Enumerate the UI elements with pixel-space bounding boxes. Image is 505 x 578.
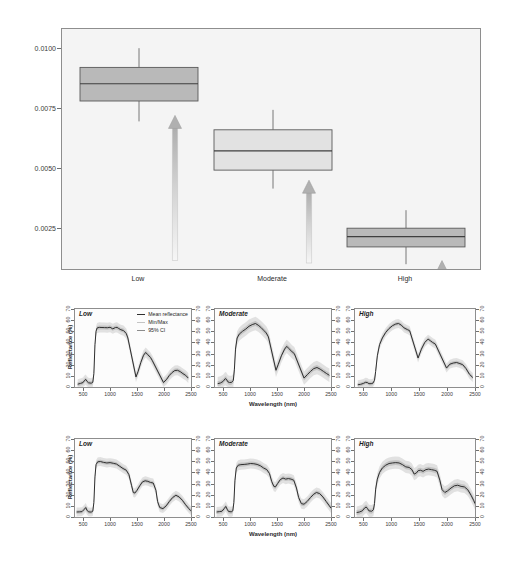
spectra-x-tick-mark [223,388,224,391]
spectra-x-tick-mark [277,518,278,521]
boxplot-category-label-low: Low [108,275,168,282]
spectra-panel-title: Moderate [219,311,248,318]
spectra-y-tick-mark-right [192,354,195,355]
spectra-x-tick-mark [419,518,420,521]
spectra-x-tick-label: 1000 [99,522,121,527]
spectra-x-tick-label: 2000 [153,522,175,527]
spectra-y-tick-mark [351,331,354,332]
spectra-x-tick-label: 2500 [464,522,486,527]
boxplot-graphics [62,29,480,269]
boxplot-category-label-high: High [375,275,435,282]
spectra-y-tick-mark [211,342,214,343]
spectra-x-tick-mark [363,388,364,391]
spectra-x-axis-title: Wavelength (nm) [214,401,332,407]
spectra-y-tick-mark-right [476,365,479,366]
spectra-y-tick-mark [211,517,214,518]
spectra-y-tick-mark-right [476,472,479,473]
spectra-y-tick-mark-right [476,506,479,507]
spectra-x-tick-label: 2500 [464,392,486,397]
spectra-band-minmax [357,456,475,517]
legend-entry: Min/Max [137,319,188,326]
spectra-y-tick-mark [71,387,74,388]
boxplot-category-label-moderate: Moderate [242,275,302,282]
spectra-y-tick-mark-right [476,342,479,343]
spectra-y-tick-mark-right [332,376,335,377]
legend-entry: Mean reflectance [137,311,188,318]
spectra-y-tick-mark [351,354,354,355]
spectra-y-tick-mark-right [192,450,195,451]
boxplot-region: Water Content (cm) 0.01000.00750.00500.0… [0,0,505,292]
spectra-y-tick-mark-right [192,331,195,332]
spectra-y-tick-label-right: 70 [196,432,201,446]
spectra-y-tick-mark-right [192,365,195,366]
spectra-y-tick-mark-right [476,387,479,388]
spectra-y-tick-mark-right [476,495,479,496]
spectra-y-tick-mark-right [476,450,479,451]
spectra-y-tick-mark-right [476,331,479,332]
spectra-y-tick-mark-right [476,517,479,518]
spectra-y-tick-mark-right [332,484,335,485]
spectra-y-tick-mark-right [192,517,195,518]
spectra-x-tick-label: 2500 [320,522,342,527]
spectra-x-tick-label: 1500 [408,522,430,527]
spectra-curve-graphics [355,309,475,387]
spectra-y-tick-mark-right [476,484,479,485]
spectra-y-tick-mark [351,365,354,366]
spectra-y-tick-mark [211,495,214,496]
spectra-x-tick-mark [164,388,165,391]
boxplot-y-tick-label: 0.0025 [16,225,56,232]
spectra-mean-line [77,462,191,513]
spectra-legend: Mean reflectanceMin/Max95% CI [137,311,188,335]
spectra-y-tick-mark-right [192,461,195,462]
legend-entry-label: Mean reflectance [148,312,188,317]
spectra-x-tick-label: 2500 [180,522,202,527]
spectra-y-axis-title: Reflectance (%) [67,437,73,517]
legend-entry: 95% CI [137,327,188,334]
spectra-y-tick-mark-right [332,387,335,388]
spectra-x-tick-label: 1000 [380,522,402,527]
spectra-x-tick-mark [304,388,305,391]
spectra-y-tick-label-right: 70 [336,302,341,316]
spectra-y-tick-label-right: 70 [480,432,485,446]
spectra-x-tick-mark [110,388,111,391]
spectra-curve-graphics [215,439,331,517]
spectra-x-tick-label: 1500 [266,392,288,397]
legend-swatch-icon [137,330,145,331]
spectra-y-tick-mark [351,450,354,451]
boxplot-box-high [347,228,465,247]
spectra-x-tick-mark [475,388,476,391]
spectra-x-tick-label: 1000 [239,392,261,397]
spectra-x-tick-label: 1500 [266,522,288,527]
spectra-y-tick-mark-right [192,309,195,310]
spectra-curve-graphics [355,439,475,517]
spectra-y-tick-mark [211,439,214,440]
spectra-band-minmax [217,459,331,518]
spectra-x-tick-label: 2000 [436,522,458,527]
spectra-x-tick-label: 1000 [380,392,402,397]
spectra-y-tick-mark-right [332,517,335,518]
spectra-y-tick-mark [351,342,354,343]
spectra-y-tick-mark-right [332,342,335,343]
spectra-x-tick-mark [391,388,392,391]
spectra-panel-row1-high: High001010202030304040505060607070500100… [354,308,476,388]
spectra-y-tick-mark [351,376,354,377]
spectra-y-tick-mark [211,387,214,388]
up-arrow-icon [436,261,449,269]
spectra-y-tick-mark [351,439,354,440]
spectra-y-tick-mark [351,387,354,388]
spectra-y-tick-mark-right [192,506,195,507]
spectra-x-tick-mark [277,388,278,391]
spectra-x-tick-mark [83,388,84,391]
spectra-y-tick-mark-right [332,461,335,462]
spectra-y-tick-mark-right [192,439,195,440]
spectra-x-tick-label: 500 [352,522,374,527]
spectra-x-tick-label: 2500 [320,392,342,397]
spectra-band-minmax [77,457,191,517]
boxplot-panel [61,28,481,270]
spectra-x-tick-label: 1000 [99,392,121,397]
spectra-x-tick-label: 2000 [293,522,315,527]
spectra-panel-row1-low: Low0010102020303040405050606070705001000… [74,308,192,388]
spectra-y-tick-mark-right [192,472,195,473]
spectra-y-tick-mark-right [332,439,335,440]
spectra-x-tick-label: 1500 [126,522,148,527]
